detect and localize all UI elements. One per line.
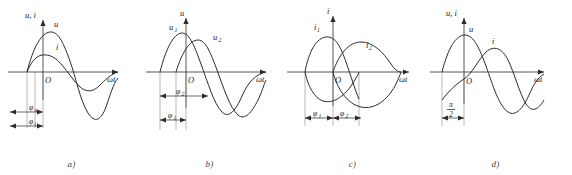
curve-i2-neg [333,72,401,108]
pi-numerator: π [449,100,453,109]
curve-u1-label: u [169,22,173,32]
origin-label: O [188,75,194,85]
curve-i2-label-group: i 2 [366,40,372,51]
phi-2-symbol: φ [176,87,180,96]
axis-vertical-label: u, i [446,8,458,18]
curve-u2-label-group: u 2 [213,32,222,43]
panel-d-plot: u, i ωt O u i π 2 [424,0,567,155]
panel-d: u, i ωt O u i π 2 d) [424,0,567,175]
curve-i2-subscript: 2 [369,45,372,51]
phi-1-symbol: φ [168,111,172,120]
axis-horizontal [146,69,266,74]
phi-1-subscript: 1 [319,113,322,119]
curve-i1-subscript: 1 [317,27,320,33]
dimension-phi-2: φ 2 [333,109,361,120]
curve-u [442,35,544,113]
curve-u1-subscript: 1 [175,27,178,33]
pi-denominator: 2 [449,110,453,119]
panel-a: u, i ωt O u i φ u φ i a) [0,0,143,175]
curve-u [27,32,118,119]
axis-vertical-label: u, i [25,10,37,20]
phi-u-subscript: u [35,107,38,113]
phi-1-symbol: φ [313,109,317,118]
curve-u2-label: u [213,32,217,42]
curve-i [27,55,118,91]
axis-vertical-label: i [327,6,330,16]
origin-label: O [335,75,341,85]
axis-horizontal-label: ωt [399,74,408,84]
origin-label: O [466,76,472,86]
curve-i-label: i [492,36,495,46]
curve-u-label: u [54,19,58,29]
curve-u2-subscript: 2 [219,37,222,43]
waveform-figure: u, i ωt O u i φ u φ i a) [0,0,572,175]
panel-c-plot: i ωt O i 1 i 2 φ 1 [281,0,424,155]
curve-u-label: u [469,24,473,34]
panel-d-caption: d) [424,159,567,169]
dimension-phi-u: φ u [10,103,43,114]
origin-label: O [45,75,51,85]
phi-2-subscript: 2 [182,91,185,97]
phi-i-symbol: φ [29,117,33,126]
dimension-phi-2: φ 2 [160,87,208,98]
curve-i [442,48,544,109]
phi-2-symbol: φ [340,109,344,118]
panel-a-plot: u, i ωt O u i φ u φ i [0,0,143,155]
panel-a-caption: a) [0,159,143,169]
dimension-pi-over-2: π 2 [442,100,464,120]
axis-vertical-label: u [180,8,184,18]
phi-u-symbol: φ [29,103,33,112]
curve-u1-label-group: u 1 [169,22,178,33]
axis-horizontal-label: ωt [256,74,265,84]
curve-i1-label-group: i 1 [314,22,320,33]
curve-i1 [305,37,359,99]
dimension-phi-1: φ 1 [305,109,333,120]
axis-horizontal-label: ωt [534,74,543,84]
panel-b-plot: u ωt O u 1 u 2 φ 2 [138,0,281,155]
panel-c: i ωt O i 1 i 2 φ 1 [281,0,424,175]
dimension-phi-i: φ i [10,117,43,128]
phi-2-subscript: 2 [346,113,349,119]
axis-horizontal-label: ωt [107,74,116,84]
panel-b: u ωt O u 1 u 2 φ 2 [138,0,281,175]
panel-b-caption: b) [138,159,281,169]
dimension-phi-1: φ 1 [160,111,186,122]
axis-horizontal [8,69,118,74]
phi-1-subscript: 1 [174,115,177,121]
panel-c-caption: c) [281,159,424,169]
curve-i-label: i [56,42,59,52]
